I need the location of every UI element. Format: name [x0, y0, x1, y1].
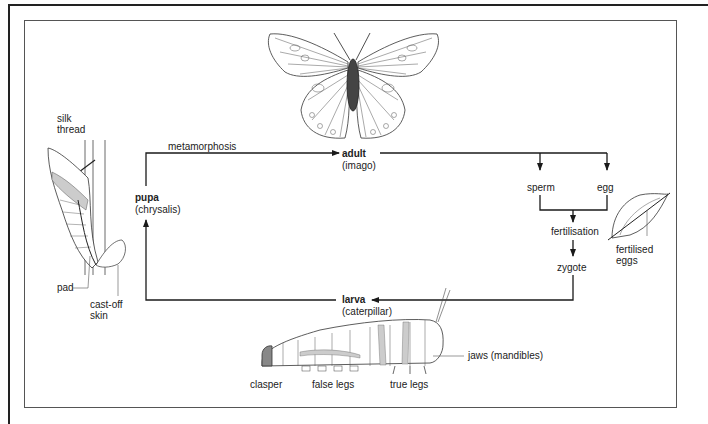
- stage-larva: larva: [342, 294, 365, 305]
- label-sperm: sperm: [527, 182, 555, 193]
- stage-adult-alt: (imago): [342, 160, 376, 171]
- arrow-pupa-to-adult: [146, 153, 339, 186]
- arrow-zygote-to-larva: [372, 275, 573, 300]
- label-metamorphosis: metamorphosis: [168, 141, 236, 152]
- label-jaws: jaws (mandibles): [468, 350, 543, 361]
- stage-larva-alt: (caterpillar): [342, 306, 392, 317]
- stage-pupa: pupa: [135, 192, 159, 203]
- label-thread: thread: [57, 124, 85, 135]
- label-skin: skin: [90, 310, 108, 321]
- label-false-legs: false legs: [312, 379, 354, 390]
- label-true-legs: true legs: [390, 379, 428, 390]
- label-fertilisation: fertilisation: [551, 226, 599, 237]
- label-zygote: zygote: [557, 262, 586, 273]
- stage-pupa-alt: (chrysalis): [135, 204, 181, 215]
- label-fertilised: fertilised: [616, 244, 653, 255]
- flow-arrows: [146, 153, 607, 300]
- label-egg: egg: [597, 182, 614, 193]
- stage-adult: adult: [342, 148, 366, 159]
- butterfly-illustration: [268, 33, 438, 138]
- label-eggs: eggs: [616, 255, 638, 266]
- label-clasper: clasper: [250, 379, 282, 390]
- eggs-illustration: [608, 193, 670, 240]
- label-silk: silk: [57, 113, 71, 124]
- label-pad: pad: [57, 282, 74, 293]
- chrysalis-illustration: [48, 140, 125, 296]
- label-cast-off: cast-off: [90, 299, 123, 310]
- arrow-larva-to-pupa: [146, 220, 336, 300]
